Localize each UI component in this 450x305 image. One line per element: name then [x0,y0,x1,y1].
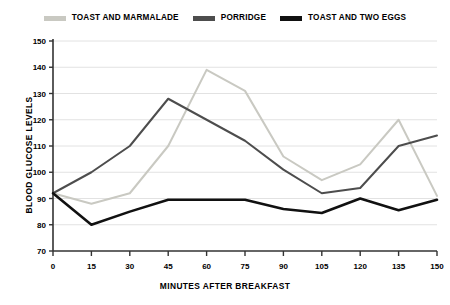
x-axis-tick-label: 30 [125,262,134,271]
x-axis-tick-label: 60 [202,262,211,271]
chart-container: TOAST AND MARMALADE PORRIDGE TOAST AND T… [0,0,450,305]
y-axis-tick-label: 120 [33,116,47,125]
y-axis-tick-label: 130 [33,90,47,99]
x-axis-tick-label: 105 [315,262,329,271]
y-axis-tick-label: 80 [37,221,46,230]
x-axis-tick-label: 120 [354,262,368,271]
data-series-line [53,70,437,204]
x-axis-tick-label: 135 [392,262,406,271]
x-axis-tick-label: 0 [51,262,56,271]
y-axis-tick-label: 150 [33,37,47,46]
x-axis-tick-label: 90 [279,262,288,271]
y-axis-tick-label: 90 [37,195,46,204]
y-axis-tick-label: 100 [33,168,47,177]
x-axis-tick-label: 75 [241,262,250,271]
plot-area: 7080901001101201301401500153045607590105… [0,0,450,305]
x-axis-tick-label: 15 [87,262,96,271]
y-axis-tick-label: 140 [33,63,47,72]
x-axis-tick-label: 45 [164,262,173,271]
x-axis-tick-label: 150 [430,262,444,271]
line-chart-svg: 7080901001101201301401500153045607590105… [0,0,450,305]
y-axis-tick-label: 110 [33,142,46,151]
y-axis-tick-label: 70 [37,247,46,256]
